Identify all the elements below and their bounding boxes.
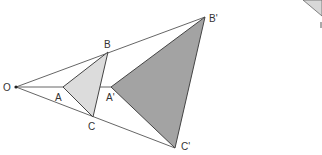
label-c: C (88, 121, 95, 132)
homothety-diagram: O A B C A' B' C' (0, 0, 322, 155)
center-point-o (14, 85, 17, 88)
label-o: O (3, 82, 11, 93)
cropped-shape-fragment (303, 0, 322, 16)
triangle-a-prime-b-prime-c-prime (111, 17, 205, 148)
label-a-prime: A' (106, 92, 115, 103)
label-b-prime: B' (209, 13, 218, 24)
label-a: A (55, 92, 62, 103)
label-b: B (104, 39, 111, 50)
label-c-prime: C' (181, 141, 190, 152)
